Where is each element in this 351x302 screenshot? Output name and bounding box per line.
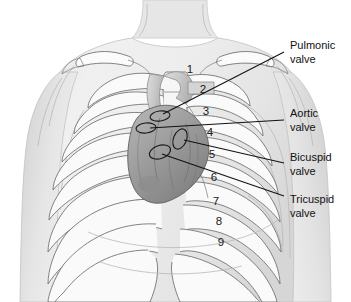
rib-number-4: 4	[207, 126, 214, 138]
rib-number-1: 1	[187, 63, 193, 75]
label-pulmonic-line1: Pulmonic	[290, 39, 336, 51]
label-pulmonic-line2: valve	[290, 53, 316, 65]
neck	[132, 0, 218, 38]
anatomy-figure: 123456789 PulmonicvalveAorticvalveBicusp…	[0, 0, 351, 302]
label-bicuspid-line2: valve	[290, 165, 316, 177]
rib-number-9: 9	[218, 236, 224, 248]
label-aortic-line1: Aortic	[290, 107, 319, 119]
rib-number-6: 6	[211, 171, 217, 183]
thorax-illustration: 123456789 PulmonicvalveAorticvalveBicusp…	[0, 0, 351, 302]
rib-number-3: 3	[203, 105, 209, 117]
rib-number-5: 5	[209, 148, 215, 160]
label-tricuspid-line2: valve	[290, 207, 316, 219]
label-aortic-line2: valve	[290, 121, 316, 133]
label-tricuspid-line1: Tricuspid	[290, 193, 334, 205]
rib-number-2: 2	[200, 83, 206, 95]
rib-number-8: 8	[216, 215, 222, 227]
label-bicuspid-line1: Bicuspid	[290, 151, 332, 163]
rib-number-7: 7	[213, 195, 219, 207]
heart-apex-shade	[138, 176, 162, 192]
